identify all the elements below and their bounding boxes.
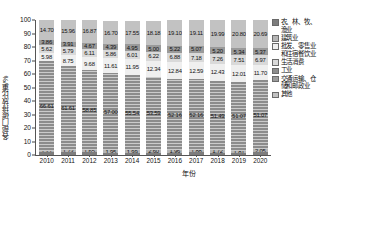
bar-segment[interactable]: 57.00: [103, 73, 118, 150]
bar-segment[interactable]: 2.60: [146, 150, 161, 154]
bar-column[interactable]: 1.7251.4912.437.265.2019.99: [210, 20, 225, 155]
bar-segment[interactable]: 4.67: [82, 43, 97, 49]
bar-segment-value: 1.96: [170, 150, 181, 153]
legend-item-agriculture[interactable]: 农、林、牧、 渔业: [272, 18, 376, 33]
bar-segment[interactable]: 12.34: [146, 61, 161, 78]
bar-segment[interactable]: 12.43: [210, 64, 225, 81]
bar-column[interactable]: 1.9557.0011.615.864.3916.70: [103, 20, 118, 155]
bar-column[interactable]: 1.9955.5411.956.014.9517.55: [125, 20, 140, 155]
legend-item-industry[interactable]: 工业: [272, 66, 376, 74]
bar-segment[interactable]: 61.61: [61, 66, 76, 149]
bar-segment[interactable]: 6.97: [253, 55, 268, 64]
bar-segment[interactable]: 17.55: [125, 21, 140, 45]
bar-column[interactable]: 1.7361.618.755.793.9115.96: [61, 20, 76, 155]
bar-segment[interactable]: 1.72: [210, 150, 225, 152]
x-tick-mark: [239, 155, 240, 157]
legend-item-construction[interactable]: 建筑业: [272, 34, 376, 42]
bar-segment-value: 12.84: [168, 68, 182, 74]
bar-segment[interactable]: 1.73: [61, 150, 76, 152]
bar-segment[interactable]: 53.59: [146, 77, 161, 149]
bar-column[interactable]: 1.9652.1612.846.885.2219.10: [167, 20, 182, 155]
bar-segment[interactable]: 16.87: [82, 20, 97, 43]
bar-segment[interactable]: 5.37: [253, 48, 268, 55]
legend-swatch-icon: [272, 43, 279, 50]
x-tick-mark: [47, 155, 48, 157]
legend-swatch-icon: [272, 19, 279, 26]
bar-segment-value: 8.75: [63, 58, 74, 64]
bar-segment[interactable]: 15.96: [61, 20, 76, 42]
bar-segment[interactable]: 19.10: [167, 20, 182, 46]
bar-segment[interactable]: 1.88: [189, 150, 204, 153]
bar-column[interactable]: 1.6558.859.686.114.6716.87: [82, 20, 97, 155]
bar-segment[interactable]: 16.70: [103, 21, 118, 44]
bar-segment[interactable]: 6.01: [125, 51, 140, 59]
bar-segment[interactable]: 18.18: [146, 21, 161, 46]
bar-segment-value: 52.16: [189, 112, 203, 118]
bar-segment[interactable]: 14.70: [39, 20, 54, 40]
bar-segment[interactable]: 8.75: [61, 55, 76, 67]
bar-segment[interactable]: 1.96: [167, 150, 182, 153]
bar-segment[interactable]: 5.86: [103, 50, 118, 58]
bar-segment[interactable]: 6.11: [82, 49, 97, 57]
legend-item-other[interactable]: 其他: [272, 90, 376, 98]
bar-segment[interactable]: 1.21: [39, 151, 54, 153]
bar-segment[interactable]: 7.26: [210, 54, 225, 64]
bar-segment[interactable]: 7.18: [189, 53, 204, 63]
bar-segment[interactable]: 11.61: [103, 58, 118, 74]
bar-segment[interactable]: 1.99: [125, 150, 140, 153]
bar-segment-value: 1.72: [212, 150, 223, 152]
bar-segment[interactable]: 19.11: [189, 20, 204, 46]
legend-item-living[interactable]: 生活消费: [272, 58, 376, 66]
bar-segment-value: 1.95: [105, 150, 116, 153]
bar-segment-value: 11.70: [254, 70, 267, 76]
bar-segment[interactable]: 5.79: [61, 47, 76, 55]
bar-segment[interactable]: 1.95: [103, 150, 118, 153]
bar-segment[interactable]: 51.07: [253, 80, 268, 149]
legend-swatch-icon: [272, 35, 279, 42]
bar-segment[interactable]: 3.91: [61, 42, 76, 47]
bar-column[interactable]: 2.6053.5912.346.225.0018.18: [146, 20, 161, 155]
bar-segment[interactable]: 5.98: [39, 53, 54, 61]
bar-segment[interactable]: 11.70: [253, 65, 268, 81]
bar-segment[interactable]: 52.16: [189, 79, 204, 149]
bar-column[interactable]: 2.0551.0711.706.975.3720.69: [253, 20, 268, 155]
bar-segment[interactable]: 6.22: [146, 52, 161, 60]
bar-segment[interactable]: 4.39: [103, 44, 118, 50]
bar-segment[interactable]: 5.62: [39, 45, 54, 53]
bar-segment[interactable]: 55.54: [125, 75, 140, 150]
bar-segment[interactable]: 52.16: [167, 79, 182, 149]
bar-column[interactable]: 1.2166.615.985.623.8614.70: [39, 20, 54, 155]
bar-segment[interactable]: 12.01: [231, 65, 246, 81]
bar-segment[interactable]: 3.86: [39, 40, 54, 45]
bar-segment[interactable]: 5.20: [210, 47, 225, 54]
bar-segment-value: 9.68: [84, 61, 95, 67]
bar-column[interactable]: 1.8151.0712.017.515.3420.80: [231, 20, 246, 155]
bar-segment[interactable]: 5.00: [146, 45, 161, 52]
bar-segment[interactable]: 1.81: [231, 151, 246, 153]
bar-segment[interactable]: 6.88: [167, 53, 182, 62]
legend-swatch-icon: [272, 68, 279, 75]
bar-segment[interactable]: 5.22: [167, 46, 182, 53]
bar-segment[interactable]: 20.80: [231, 20, 246, 48]
bar-segment[interactable]: 4.95: [125, 44, 140, 51]
bar-segment[interactable]: 12.84: [167, 62, 182, 79]
bar-segment[interactable]: 12.59: [189, 62, 204, 79]
bar-segment[interactable]: 5.07: [189, 46, 204, 53]
bar-segment[interactable]: 51.49: [210, 81, 225, 151]
bar-segment-value: 7.51: [234, 57, 245, 63]
bar-column[interactable]: 1.8852.1612.597.185.0719.11: [189, 20, 204, 155]
bar-segment[interactable]: 58.85: [82, 70, 97, 149]
bar-segment[interactable]: 5.34: [231, 48, 246, 55]
bar-segment[interactable]: 1.65: [82, 150, 97, 152]
legend-item-transport[interactable]: 交通运输、仓 储和邮政业: [272, 75, 376, 90]
bar-segment[interactable]: 20.69: [253, 20, 268, 48]
bar-segment[interactable]: 51.07: [231, 82, 246, 151]
bar-segment[interactable]: 19.99: [210, 20, 225, 47]
bar-segment-value: 57.00: [104, 109, 118, 115]
bar-segment[interactable]: 7.51: [231, 55, 246, 65]
bar-segment[interactable]: 9.68: [82, 57, 97, 70]
bar-segment[interactable]: 2.05: [253, 149, 268, 152]
bar-segment[interactable]: 11.95: [125, 59, 140, 75]
bar-segment[interactable]: 66.61: [39, 61, 54, 151]
legend-item-wholesale[interactable]: 批发、零售业 和住宿餐饮业: [272, 42, 376, 57]
